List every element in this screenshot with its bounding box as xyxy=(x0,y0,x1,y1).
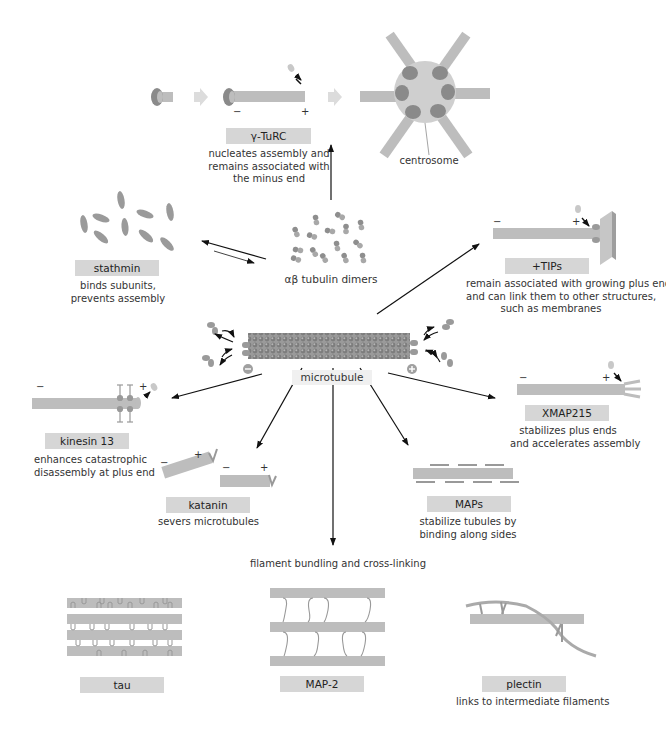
tubulin-dimer xyxy=(334,211,346,221)
caption-line: remain associated with growing plus ends xyxy=(466,278,636,291)
tau-label: tau xyxy=(80,677,164,693)
maps-caption: stabilize tubules by binding along sides xyxy=(418,516,518,541)
map2-illustration xyxy=(270,588,385,666)
stathmin-label: stathmin xyxy=(75,260,159,276)
caption-line: such as membranes xyxy=(466,303,636,316)
arrow-to-stathmin xyxy=(202,241,266,259)
tubulin-dimer xyxy=(324,227,335,234)
tau-projection xyxy=(76,640,80,646)
caption-line: nucleates assembly and xyxy=(208,148,330,161)
kinesin13-label: kinesin 13 xyxy=(45,433,129,449)
tau-projection xyxy=(163,624,167,630)
tau-projection xyxy=(71,624,75,630)
caption-line: the minus end xyxy=(208,173,330,186)
gamma-turc-nucleation-sequence xyxy=(151,32,490,159)
microtubule-label: microtubule xyxy=(292,370,372,385)
centrosome-aster xyxy=(360,32,490,159)
tubulin-dimer xyxy=(292,226,301,238)
minus-end-symbol: − xyxy=(233,107,241,117)
diagram-canvas xyxy=(0,0,666,736)
plectin-illustration xyxy=(466,602,596,656)
plus-end-symbol: + xyxy=(572,217,580,227)
tips-caption: remain associated with growing plus ends… xyxy=(466,278,636,316)
step-arrow-2 xyxy=(328,88,342,106)
caption-line: remains associated with xyxy=(208,161,330,174)
plus-end-symbol: + xyxy=(260,463,268,473)
centrosome-label: centrosome xyxy=(394,155,464,168)
minus-end-symbol: − xyxy=(160,458,168,468)
gamma-turc-label: γ-TuRC xyxy=(226,128,311,144)
caption-line: binds subunits, xyxy=(68,280,168,293)
arrow-from-stathmin xyxy=(214,251,254,263)
nucleated-microtubule xyxy=(223,63,305,106)
gamma-turc-ring-small xyxy=(151,88,173,106)
maps-illustration xyxy=(413,464,519,483)
tubulin-dimer xyxy=(309,246,319,258)
minus-end-symbol: − xyxy=(493,217,501,227)
xmap215-caption: stabilizes plus ends and accelerates ass… xyxy=(510,425,626,450)
tau-projection xyxy=(130,624,134,630)
tau-projection xyxy=(105,624,109,630)
katanin-illustration xyxy=(161,449,276,487)
centrosome-pointer xyxy=(425,123,429,155)
tubulin-dimer xyxy=(290,255,302,264)
incoming-dimer xyxy=(286,63,295,73)
tips-label: +TIPs xyxy=(505,258,589,274)
tau-projection xyxy=(110,640,114,646)
tubulin-dimer xyxy=(319,252,329,264)
caption-line: prevents assembly xyxy=(68,293,168,306)
caption-line: and can link them to other structures, xyxy=(466,291,636,304)
xmap215-illustration xyxy=(517,361,641,397)
incoming-dimer xyxy=(608,361,614,369)
plectin-label: plectin xyxy=(482,676,566,692)
tubulin-dimer xyxy=(306,232,318,241)
step-arrow-1 xyxy=(194,88,208,106)
maps-label: MAPs xyxy=(427,496,511,512)
tubulin-dimer xyxy=(352,238,364,249)
minus-end-symbol: − xyxy=(36,382,44,392)
kinesin13-caption: enhances catastrophic disassembly at plu… xyxy=(34,454,142,479)
bundling-caption: filament bundling and cross-linking xyxy=(250,558,410,571)
caption-line: stabilize tubules by xyxy=(418,516,518,529)
tubulin-dimer xyxy=(292,246,303,253)
stathmin-complexes xyxy=(79,191,176,253)
katanin-caption: severs microtubules xyxy=(158,516,258,529)
tau-projection xyxy=(148,624,152,630)
katanin-label: katanin xyxy=(166,497,250,513)
tubulin-dimer xyxy=(341,252,350,264)
gamma-turc-caption: nucleates assembly and remains associate… xyxy=(208,148,330,186)
tau-projection xyxy=(93,640,97,646)
tips-illustration xyxy=(493,205,616,265)
plus-end-symbol: + xyxy=(139,382,147,392)
tubulin-dimer xyxy=(333,240,340,251)
minus-end-symbol: − xyxy=(519,373,527,383)
tau-projection xyxy=(168,640,172,646)
caption-line: binding along sides xyxy=(418,529,518,542)
stathmin-caption: binds subunits, prevents assembly xyxy=(68,280,168,305)
map2-label: MAP-2 xyxy=(280,676,364,692)
tau-illustration xyxy=(67,598,182,656)
plus-end-symbol: + xyxy=(602,373,610,383)
tau-projection xyxy=(130,640,134,646)
tubulin-dimer-field xyxy=(290,211,367,264)
arrow-to-tips xyxy=(377,244,479,314)
tubulin-dimer xyxy=(357,219,364,230)
tubulin-dimer xyxy=(312,214,319,225)
arrow-to-kinesin13 xyxy=(172,374,262,398)
tubulin-dimer xyxy=(359,252,366,263)
tubulin-dimers-label: αβ tubulin dimers xyxy=(282,273,380,286)
tubulin-dimer xyxy=(343,224,349,235)
caption-line: and accelerates assembly xyxy=(510,438,626,451)
tau-projection xyxy=(153,640,157,646)
plectin-caption: links to intermediate filaments xyxy=(456,696,596,709)
plus-end-symbol: + xyxy=(194,450,202,460)
caption-line: stabilizes plus ends xyxy=(510,425,626,438)
released-dimer xyxy=(149,382,158,392)
xmap215-label: XMAP215 xyxy=(525,405,609,421)
plus-end-symbol: + xyxy=(301,107,309,117)
caption-line: enhances catastrophic xyxy=(34,454,142,467)
tau-projection xyxy=(90,624,94,630)
arrow-to-xmap215 xyxy=(388,373,495,398)
microtubule-lattice xyxy=(202,319,454,374)
minus-end-symbol: − xyxy=(222,463,230,473)
